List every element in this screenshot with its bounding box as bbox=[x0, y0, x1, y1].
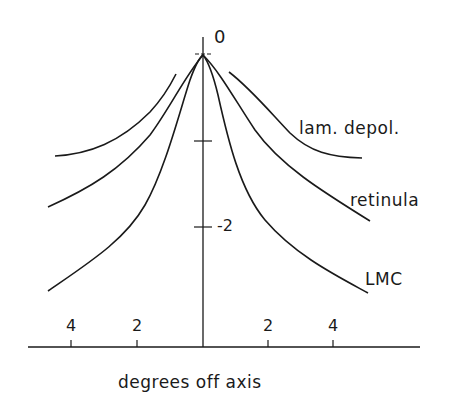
y-tick-label-0: 0 bbox=[214, 26, 225, 47]
y-tick-label-minus-2: -2 bbox=[217, 216, 233, 235]
series-label-lmc: LMC bbox=[365, 269, 403, 289]
x-tick-label-left-4: 4 bbox=[66, 316, 76, 335]
x-tick-label-right-4: 4 bbox=[328, 316, 338, 335]
x-axis-label: degrees off axis bbox=[118, 372, 262, 392]
series-lam-depol-right bbox=[229, 72, 362, 158]
series-lam-depol-left bbox=[55, 74, 176, 156]
series-label-lam-depol: lam. depol. bbox=[299, 118, 400, 138]
x-tick-label-left-2: 2 bbox=[132, 316, 142, 335]
x-tick-label-right-2: 2 bbox=[263, 316, 273, 335]
series-lmc bbox=[48, 55, 368, 293]
series-label-retinula: retinula bbox=[350, 190, 419, 210]
series-retinula bbox=[48, 55, 370, 221]
